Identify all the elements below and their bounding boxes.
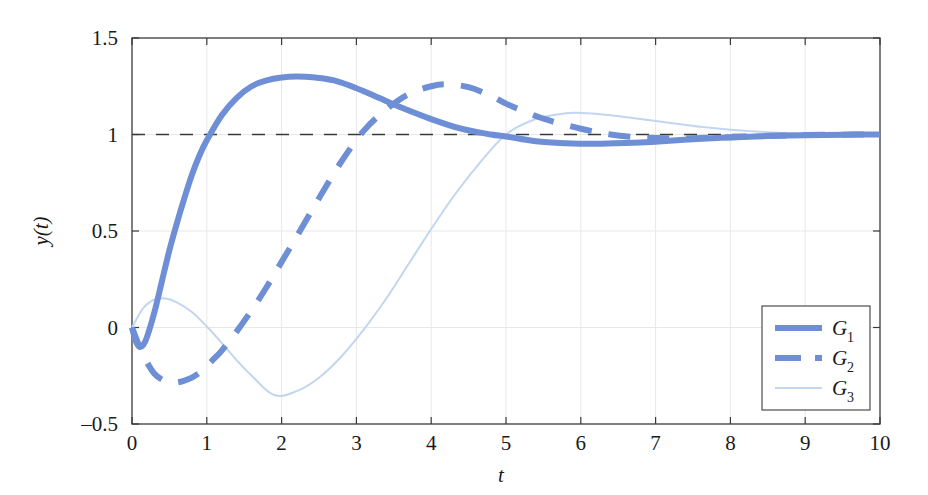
x-tick-label: 5 (501, 431, 512, 455)
x-tick-label: 8 (725, 431, 736, 455)
legend-label-subscript: 2 (847, 360, 854, 375)
x-tick-label: 3 (351, 431, 362, 455)
x-tick-label: 2 (276, 431, 287, 455)
legend-label-text: G (832, 316, 847, 340)
y-tick-label: 1.5 (92, 26, 118, 50)
x-tick-label: 0 (127, 431, 138, 455)
legend-label-subscript: 1 (847, 330, 854, 345)
x-tick-label: 6 (576, 431, 587, 455)
x-tick-label: 4 (426, 431, 437, 455)
y-tick-label: 0.5 (92, 219, 118, 243)
y-axis-title: y(t) (29, 216, 53, 247)
x-tick-label: 1 (202, 431, 213, 455)
chart-legend[interactable]: G1G2G3 (762, 306, 870, 410)
y-tick-label: 1 (108, 123, 119, 147)
figure-container: 012345678910 1.510.50–0.5 ty(t) G1G2G3 (0, 0, 928, 495)
y-tick-label: –0.5 (80, 412, 118, 436)
x-tick-label: 9 (800, 431, 811, 455)
chart-background (0, 0, 928, 495)
x-tick-label: 10 (870, 431, 891, 455)
x-tick-label: 7 (650, 431, 661, 455)
legend-label-text: G (832, 346, 847, 370)
legend-label-text: G (832, 376, 847, 400)
y-tick-label: 0 (108, 316, 119, 340)
line-chart: 012345678910 1.510.50–0.5 ty(t) G1G2G3 (0, 0, 928, 495)
legend-label-subscript: 3 (847, 390, 854, 405)
